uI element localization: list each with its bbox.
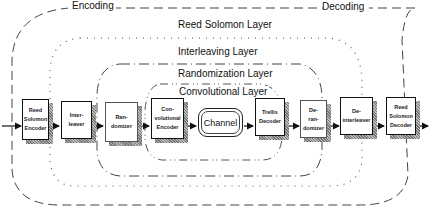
deinterleaver-block: De- interleaver: [340, 97, 373, 135]
block-label: De- ran- domizer: [303, 106, 324, 133]
interleaver-block: Inter- leaver: [61, 101, 92, 139]
block-label: Ran- domizer: [111, 113, 132, 131]
block-label: Trellis Decoder: [259, 108, 281, 126]
reed-solomon-layer-label: Reed Solomon Layer: [178, 19, 272, 30]
randomization-layer-label: Randomization Layer: [178, 68, 273, 79]
convolutional-layer-label: Convolutional Layer: [179, 86, 267, 97]
trellis-decoder-block: Trellis Decoder: [255, 98, 285, 136]
reed-solomon-encoder-block: Reed Solomon Encoder: [22, 99, 49, 140]
convolutional-encoder-block: Con- volutional Encoder: [151, 98, 184, 139]
block-label: Con- volutional Encoder: [155, 105, 181, 132]
block-label: De- interleaver: [343, 107, 371, 125]
randomizer-block: Ran- domizer: [105, 102, 138, 142]
channel-block: Channel: [198, 108, 243, 137]
channel-label: Channel: [204, 118, 238, 128]
derandomizer-block: De- ran- domizer: [300, 100, 327, 138]
reed-solomon-decoder-block: Reed Solomon Decoder: [386, 97, 416, 135]
encoding-label: Encoding: [72, 0, 114, 11]
block-label: Reed Solomon Encoder: [24, 106, 48, 133]
block-label: Reed Solomon Decoder: [389, 103, 413, 130]
decoding-label: Decoding: [322, 1, 364, 12]
interleaving-layer-label: Interleaving Layer: [178, 46, 258, 57]
block-label: Inter- leaver: [69, 111, 85, 129]
